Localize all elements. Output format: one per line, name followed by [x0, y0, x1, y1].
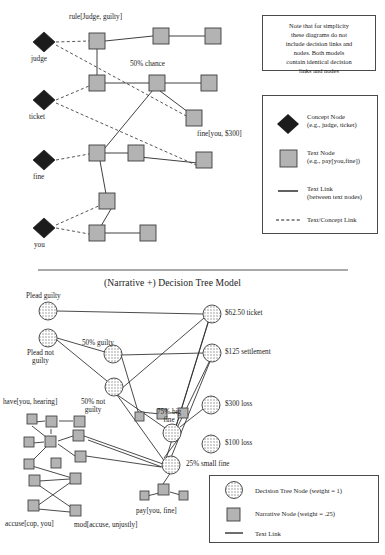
node-label-25-small-fine: 25% small fine — [186, 461, 230, 469]
legend-item-text-node: Text Node (e.g., pay[you,fine]) — [307, 149, 360, 165]
bottom-panel-title: (Narrative +) Decision Tree Model — [104, 278, 241, 288]
node-label-100-loss: $100 loss — [225, 440, 252, 448]
note-line-5: contain identical decision — [269, 57, 369, 66]
legend-title-text-node: Text Node — [307, 149, 360, 157]
diamond-icon — [277, 114, 299, 134]
narrative-label-pay-you-fine: pay[you, fine] — [136, 508, 177, 516]
legend-sub-text-node: (e.g., pay[you,fine]) — [307, 157, 360, 165]
annotation-rule-judge-guilty: rule[Judge, guilty] — [69, 14, 122, 22]
legend-label-narrative-node: Narrative Node (weight = .25) — [255, 510, 335, 518]
circle-icon — [226, 482, 243, 499]
narrative-label-mod-accuse-unjustly: mod[accuse, unjustly] — [74, 522, 137, 530]
concept-label-ticket: ticket — [29, 114, 45, 122]
bottom-decision-nodes — [39, 302, 221, 474]
annotation-fine-you-300: fine[you, $300] — [197, 131, 242, 139]
note-line-4: nodes. Both models — [269, 48, 369, 57]
bottom-legend-icons — [210, 476, 378, 542]
node-label-75-big-fine: 75% big fine — [157, 409, 181, 424]
legend-label-decision-tree-node: Decision Tree Node (weight = 1) — [255, 487, 342, 495]
legend-title-concept: Concept Node — [307, 113, 357, 121]
annotation-50-chance: 50% chance — [130, 61, 165, 69]
node-label-settlement-125: $125 settlement — [225, 349, 271, 357]
legend-title-text-link: Text Link — [307, 185, 362, 193]
note-line-2: these diagrams do not — [269, 30, 369, 39]
top-legend-box: Concept Node (e.g., judge, ticket) Text … — [262, 95, 378, 234]
legend-title-text-concept-link: Text/Concept Link — [307, 216, 357, 224]
node-label-300-loss: $300 loss — [225, 401, 252, 409]
note-line-3: include decision links and — [269, 39, 369, 48]
concept-label-judge: judge — [31, 56, 47, 64]
note-line-6: links and nodes — [269, 66, 369, 75]
legend-item-text-link: Text Link (between text nodes) — [307, 185, 362, 201]
legend-item-concept-node: Concept Node (e.g., judge, ticket) — [307, 113, 357, 129]
node-label-50-guilty: 50% guilty — [82, 340, 114, 348]
square-icon — [227, 508, 240, 521]
narrative-label-have-you-hearing: have[you, hearing] — [3, 399, 57, 407]
top-concept-links — [56, 41, 196, 234]
bottom-legend-box: Decision Tree Node (weight = 1) Narrativ… — [209, 475, 379, 543]
concept-label-fine: fine — [33, 174, 44, 182]
concept-label-you: you — [34, 242, 45, 250]
node-label-ticket-6250: $62.50 ticket — [225, 310, 263, 318]
narrative-label-accuse-cop-you: accuse[cop, you] — [5, 521, 54, 529]
legend-item-text-concept-link: Text/Concept Link — [307, 216, 357, 224]
legend-sub-text-link: (between text nodes) — [307, 193, 362, 201]
note-box: Note that for simplicity these diagrams … — [262, 15, 376, 71]
figure-root: judge ticket fine you rule[Judge, guilty… — [0, 0, 385, 555]
legend-sub-concept: (e.g., judge, ticket) — [307, 121, 357, 129]
node-label-plead-not-guilty: Plead not guilty — [27, 350, 54, 365]
note-line-1: Note that for simplicity — [269, 21, 369, 30]
node-label-plead-guilty: Plead guilty — [26, 293, 61, 301]
node-label-50-not-guilty: 50% not guilty — [81, 399, 105, 414]
square-icon — [280, 150, 297, 167]
legend-label-text-link: Text Link — [255, 530, 281, 538]
